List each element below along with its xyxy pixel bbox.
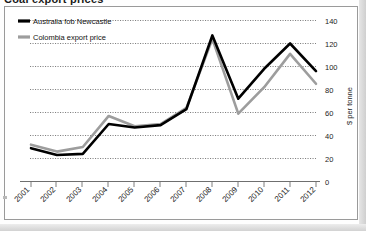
x-tick-label-2003: 2003 <box>64 185 83 204</box>
x-tick-label-2009: 2009 <box>220 185 239 204</box>
scan-speck <box>3 196 7 199</box>
series-line-australia-fob-newcastle <box>31 35 316 155</box>
x-tick-label-2002: 2002 <box>38 185 57 204</box>
scan-edge-shadow-right <box>359 0 366 231</box>
chart-figure: Coal export prices <box>0 0 366 231</box>
y-tick-label-0: 0 <box>325 178 329 187</box>
x-tick-label-2012: 2012 <box>298 185 317 204</box>
legend-label-colombia: Colombia export price <box>33 33 106 42</box>
y-axis-title-group: $ per tonne <box>345 87 354 125</box>
x-tick-label-2005: 2005 <box>116 185 135 204</box>
x-tick-label-2001: 2001 <box>12 185 31 204</box>
scan-edge-shadow-bottom <box>0 224 366 231</box>
y-tick-label-80: 80 <box>325 86 333 95</box>
chart-plot-area: 0 20 40 60 80 100 120 140 $ per tonne 20… <box>0 0 366 231</box>
y-tick-label-20: 20 <box>325 155 333 164</box>
x-tick-label-2011: 2011 <box>273 185 292 204</box>
y-axis-title: $ per tonne <box>345 87 354 125</box>
data-series <box>31 35 316 155</box>
series-line-colombia-export-price <box>31 39 316 152</box>
y-tick-labels: 0 20 40 60 80 100 120 140 <box>325 17 338 187</box>
y-tick-label-140: 140 <box>325 17 338 26</box>
x-axis <box>20 182 320 188</box>
x-tick-labels: 2001 2002 2003 2004 2005 2006 2007 2008 … <box>12 185 317 204</box>
x-tick-label-2008: 2008 <box>194 185 213 204</box>
y-tick-label-120: 120 <box>325 40 338 49</box>
x-tick-label-2010: 2010 <box>246 185 265 204</box>
y-tick-label-40: 40 <box>325 132 333 141</box>
legend: Australia fob Newcastle Colombia export … <box>18 17 111 42</box>
x-tick-label-2004: 2004 <box>90 185 109 204</box>
y-tick-label-60: 60 <box>325 109 333 118</box>
x-tick-label-2007: 2007 <box>168 185 187 204</box>
x-tick-label-2006: 2006 <box>142 185 161 204</box>
chart-svg: 0 20 40 60 80 100 120 140 $ per tonne 20… <box>0 0 366 231</box>
y-tick-label-100: 100 <box>325 63 338 72</box>
legend-label-australia: Australia fob Newcastle <box>33 17 111 26</box>
